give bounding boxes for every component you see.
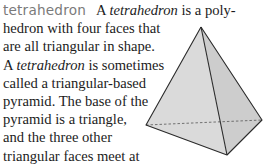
- entry-line-1: tetrahedronA tetrahedron is a poly-: [3, 1, 263, 19]
- line-text: is sometimes: [85, 57, 164, 73]
- entry-line-3: are all triangular in shape.: [3, 37, 263, 55]
- term-emphasis: tetrahedron: [16, 57, 84, 73]
- entry-line-10: a point.: [3, 165, 263, 168]
- entry-line-9: triangular faces meet at: [3, 147, 263, 165]
- headword: tetrahedron: [3, 2, 86, 18]
- line-text: A: [3, 57, 16, 73]
- entry-line-7: pyramid is a triangle,: [3, 110, 263, 128]
- entry-line-4: A tetrahedron is sometimes: [3, 56, 263, 74]
- entry-line-5: called a triangular-based: [3, 74, 263, 92]
- line-text: is a poly-: [178, 2, 236, 18]
- entry-line-8: and the three other: [3, 128, 263, 146]
- entry-line-6: pyramid. The base of the: [3, 92, 263, 110]
- entry-line-2: hedron with four faces that: [3, 19, 263, 37]
- term-emphasis: tetrahedron: [109, 2, 177, 18]
- line-text: A: [96, 2, 109, 18]
- glossary-entry: tetrahedronA tetrahedron is a poly- hedr…: [3, 1, 263, 168]
